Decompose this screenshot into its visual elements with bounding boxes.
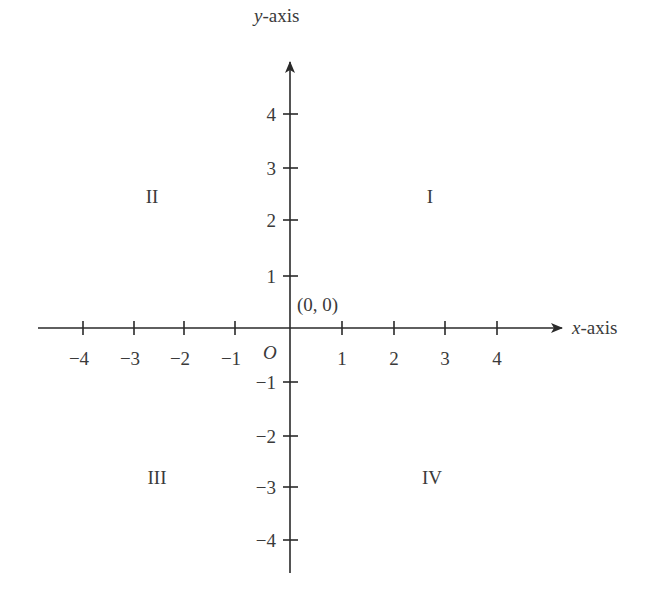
x-tick-label: 4 xyxy=(492,348,502,369)
x-tick-label: −3 xyxy=(120,348,140,369)
origin-coordinate-label: (0, 0) xyxy=(297,294,338,316)
x-axis-label: x-axis xyxy=(571,317,617,338)
quadrant-label-ii: II xyxy=(146,186,159,207)
y-tick-label: 2 xyxy=(267,210,277,231)
x-tick-label: 3 xyxy=(440,348,450,369)
y-tick-label: −1 xyxy=(256,372,276,393)
quadrant-label-iii: III xyxy=(148,467,167,488)
x-tick-label: −1 xyxy=(221,348,241,369)
y-tick-label: 3 xyxy=(267,158,277,179)
origin-symbol: O xyxy=(263,342,277,363)
x-tick-label: 1 xyxy=(337,348,347,369)
quadrant-label-i: I xyxy=(427,186,433,207)
y-tick-label: −3 xyxy=(256,477,276,498)
coordinate-plane: −4−3−2−11234 4321−1−2−3−4 y-axis x-axis … xyxy=(0,0,655,600)
y-axis-label: y-axis xyxy=(252,5,299,26)
x-tick-label: 2 xyxy=(389,348,399,369)
y-tick-label: 4 xyxy=(267,104,277,125)
x-tick-label: −4 xyxy=(69,348,90,369)
y-tick-label: −2 xyxy=(256,426,276,447)
quadrant-label-iv: IV xyxy=(422,467,442,488)
y-tick-label: 1 xyxy=(267,266,277,287)
y-tick-label: −4 xyxy=(256,530,277,551)
x-tick-label: −2 xyxy=(170,348,190,369)
